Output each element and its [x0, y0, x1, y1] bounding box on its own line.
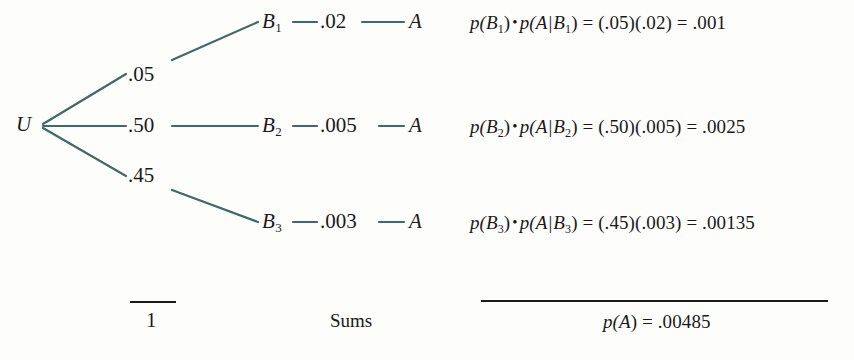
- conditional-probability-1: .02: [320, 11, 346, 32]
- eq2-b: B: [486, 116, 498, 137]
- prior-probability-2: .50: [128, 115, 154, 136]
- eq3-cond-close: ): [571, 212, 577, 233]
- prior-probability-1: .05: [128, 64, 154, 85]
- node-b1: B1: [262, 11, 281, 32]
- eq3-cond-a: A: [536, 212, 548, 233]
- eq1-b-sub: 1: [498, 22, 504, 36]
- eq3-factor2: (.003): [635, 212, 682, 233]
- node-b2-letter: B: [262, 113, 275, 137]
- eq1-dot: •: [510, 14, 519, 30]
- eq3-cond-b-sub: 3: [565, 222, 571, 236]
- eq3-cond-b: B: [553, 212, 565, 233]
- eq2-p-open: p(: [470, 116, 486, 137]
- eq2-cond-b: B: [553, 116, 565, 137]
- eq3-equals2: =: [686, 212, 697, 233]
- eq2-factor2: (.005): [635, 116, 682, 137]
- eq2-factor1: (.50): [598, 116, 635, 137]
- root-node-u: U: [16, 114, 31, 135]
- node-b3-letter: B: [262, 209, 275, 233]
- eq3-dot: •: [510, 214, 519, 230]
- total-probability: p(A) = .00485: [603, 312, 711, 331]
- eq1-cond-b-sub: 1: [565, 22, 571, 36]
- node-b1-subscript: 1: [275, 20, 282, 35]
- total-p-open: p(: [603, 311, 619, 332]
- eq1-result: .001: [692, 12, 726, 33]
- node-b3-subscript: 3: [275, 220, 282, 235]
- eq1-cond-a: A: [536, 12, 548, 33]
- eq1-p-open: p(: [470, 12, 486, 33]
- node-b3: B3: [262, 211, 281, 232]
- total-close: ): [631, 311, 637, 332]
- eq2-cond-b-sub: 2: [565, 126, 571, 140]
- branch-line-p1-to-b1: [172, 22, 258, 60]
- total-a: A: [619, 311, 631, 332]
- eq1-cond-b: B: [553, 12, 565, 33]
- probability-tree-diagram: U .05 .50 .45 B1 B2 B3 .02 .005 .003 A A…: [0, 0, 854, 360]
- eq1-factor1: (.05): [598, 12, 635, 33]
- prior-sum-value: 1: [146, 310, 157, 331]
- eq1-cond-close: ): [571, 12, 577, 33]
- branch-line-u-to-p1: [43, 74, 126, 124]
- outcome-node-a1: A: [409, 11, 422, 32]
- eq1-b: B: [486, 12, 498, 33]
- eq2-cond-open: p(: [520, 116, 536, 137]
- branch-line-u-to-p3: [43, 128, 126, 176]
- eq1-equals2: =: [677, 12, 688, 33]
- eq2-cond-a: A: [536, 116, 548, 137]
- total-value: .00485: [658, 311, 711, 332]
- prior-sum-rule: [130, 301, 176, 303]
- eq2-result: .0025: [702, 116, 745, 137]
- eq2-equals: =: [582, 116, 593, 137]
- equation-row-3: p(B3)•p(A|B3) = (.45)(.003) = .00135: [470, 213, 755, 232]
- node-b1-letter: B: [262, 9, 275, 33]
- node-b2: B2: [262, 115, 281, 136]
- total-equals: =: [642, 311, 653, 332]
- eq3-factor1: (.45): [598, 212, 635, 233]
- eq3-result: .00135: [702, 212, 755, 233]
- eq3-b-sub: 3: [498, 222, 504, 236]
- conditional-probability-3: .003: [320, 211, 357, 232]
- eq2-b-sub: 2: [498, 126, 504, 140]
- sums-label: Sums: [330, 311, 372, 330]
- prior-probability-3: .45: [128, 165, 154, 186]
- eq3-cond-open: p(: [520, 212, 536, 233]
- equation-row-2: p(B2)•p(A|B2) = (.50)(.005) = .0025: [470, 117, 745, 136]
- outcome-node-a3: A: [409, 211, 422, 232]
- eq2-cond-close: ): [571, 116, 577, 137]
- equation-row-1: p(B1)•p(A|B1) = (.05)(.02) = .001: [470, 13, 726, 32]
- total-probability-rule: [481, 300, 828, 302]
- eq2-dot: •: [510, 118, 519, 134]
- eq1-equals: =: [582, 12, 593, 33]
- node-b2-subscript: 2: [275, 124, 282, 139]
- outcome-node-a2: A: [409, 115, 422, 136]
- eq3-equals: =: [582, 212, 593, 233]
- eq3-p-open: p(: [470, 212, 486, 233]
- eq3-b: B: [486, 212, 498, 233]
- eq2-equals2: =: [686, 116, 697, 137]
- conditional-probability-2: .005: [320, 115, 357, 136]
- branch-line-p3-to-b3: [172, 190, 258, 222]
- eq1-factor2: (.02): [635, 12, 672, 33]
- eq1-cond-open: p(: [520, 12, 536, 33]
